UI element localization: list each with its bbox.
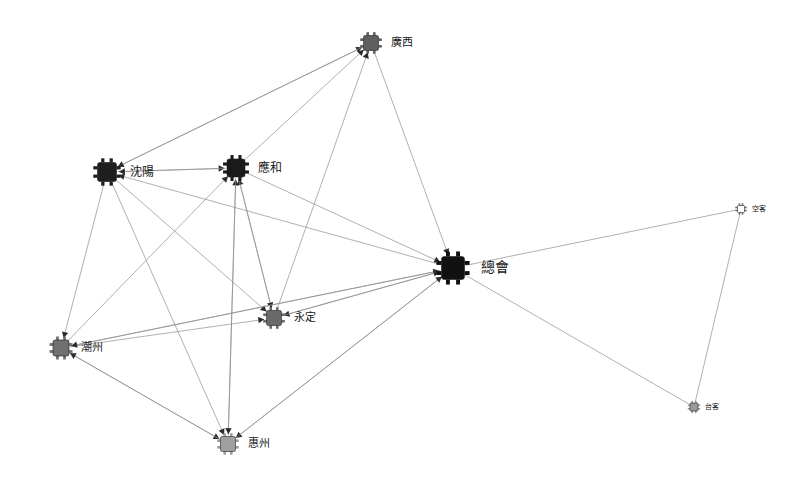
device-port — [69, 343, 73, 346]
edge-zonghui-to-taike — [464, 274, 688, 403]
network-device-icon[interactable] — [227, 159, 245, 177]
device-port — [231, 177, 234, 181]
device-port — [117, 175, 121, 178]
network-device-icon[interactable] — [690, 403, 698, 411]
device-port — [276, 307, 279, 310]
graph-node-guangxi[interactable]: 廣西 — [360, 32, 412, 54]
device-port — [360, 38, 363, 41]
node-label-chaozhou: 潮州 — [81, 340, 103, 354]
device-port — [101, 182, 104, 186]
device-port — [238, 177, 241, 181]
device-port — [366, 51, 369, 54]
device-port — [49, 343, 53, 346]
graph-node-yongding[interactable]: 永定 — [263, 307, 315, 329]
device-port — [117, 166, 121, 169]
device-port — [245, 163, 249, 166]
edge-yinghe-to-guangxi — [244, 50, 364, 161]
network-device-icon[interactable] — [442, 257, 465, 280]
node-label-shenyang: 沈陽 — [130, 164, 154, 179]
device-port — [465, 261, 470, 265]
device-port — [49, 350, 53, 353]
device-port — [745, 207, 747, 209]
device-port — [373, 51, 376, 54]
device-port — [456, 280, 460, 285]
device-port — [93, 166, 97, 169]
device-port — [695, 401, 697, 403]
device-port — [223, 433, 226, 436]
device-port — [269, 307, 272, 310]
device-port — [688, 404, 690, 406]
edge-zonghui-to-kongke — [466, 210, 736, 265]
node-label-guangxi: 廣西 — [391, 35, 413, 49]
graph-node-huizhou[interactable]: 惠州 — [217, 433, 269, 455]
network-device-icon[interactable] — [98, 163, 117, 182]
network-graph-canvas: 廣西沈陽應和總會永定潮州惠州空客台客 — [0, 0, 807, 489]
network-device-icon[interactable] — [738, 206, 745, 213]
device-port — [269, 326, 272, 329]
device-port — [456, 251, 460, 256]
device-port — [745, 210, 747, 212]
device-port — [742, 203, 744, 205]
graph-node-yinghe[interactable]: 應和 — [223, 155, 282, 181]
device-port — [739, 213, 741, 215]
device-port — [739, 203, 741, 205]
edge-zonghui-to-shenyang — [118, 175, 440, 264]
device-port — [379, 38, 382, 41]
device-port — [245, 170, 249, 173]
edge-shenyang-to-chaozhou — [64, 183, 105, 338]
device-port — [465, 271, 470, 275]
device-port — [698, 404, 700, 406]
edge-yinghe-to-huizhou — [228, 178, 235, 434]
device-port — [263, 320, 266, 323]
device-port — [56, 356, 59, 360]
network-device-icon[interactable] — [364, 36, 379, 51]
edge-huizhou-to-zonghui — [235, 277, 442, 439]
device-port — [230, 452, 233, 455]
device-port — [282, 313, 285, 316]
arrowhead-huizhou-to-chaozhou — [70, 353, 77, 359]
device-port — [436, 271, 441, 275]
edge-guangxi-to-shenyang — [118, 47, 363, 167]
device-port — [236, 446, 239, 449]
device-port — [63, 336, 66, 340]
node-label-yinghe: 應和 — [258, 160, 282, 175]
device-port — [698, 408, 700, 410]
device-port — [735, 207, 737, 209]
device-port — [742, 213, 744, 215]
device-port — [366, 32, 369, 35]
node-label-yongding: 永定 — [294, 310, 316, 324]
device-port — [236, 439, 239, 442]
edge-kongke-to-taike — [695, 214, 740, 401]
node-layer: 廣西沈陽應和總會永定潮州惠州空客台客 — [49, 32, 765, 455]
device-port — [69, 350, 73, 353]
network-device-icon[interactable] — [221, 437, 236, 452]
network-device-icon[interactable] — [53, 340, 69, 356]
node-label-zonghui: 總會 — [481, 259, 509, 275]
device-port — [688, 408, 690, 410]
device-port — [379, 45, 382, 48]
network-device-icon[interactable] — [267, 311, 282, 326]
edge-layer — [62, 47, 740, 440]
arrowhead-huizhou-to-zonghui — [435, 277, 442, 283]
device-port — [691, 401, 693, 403]
edge-yinghe-to-zonghui — [245, 172, 440, 262]
graph-node-chaozhou[interactable]: 潮州 — [49, 336, 103, 359]
device-port — [263, 313, 266, 316]
graph-node-taike[interactable]: 台客 — [688, 401, 719, 413]
device-port — [373, 32, 376, 35]
device-port — [230, 433, 233, 436]
device-port — [360, 45, 363, 48]
device-port — [691, 411, 693, 413]
device-port — [110, 158, 113, 162]
edge-huizhou-to-chaozhou — [70, 353, 220, 439]
device-port — [110, 182, 113, 186]
device-port — [446, 251, 450, 256]
node-label-taike: 台客 — [705, 402, 719, 411]
device-port — [217, 446, 220, 449]
graph-node-kongke[interactable]: 空客 — [735, 203, 765, 214]
device-port — [93, 175, 97, 178]
device-port — [231, 155, 234, 159]
device-port — [276, 326, 279, 329]
edge-yongding-to-zonghui — [282, 272, 439, 316]
device-port — [446, 280, 450, 285]
